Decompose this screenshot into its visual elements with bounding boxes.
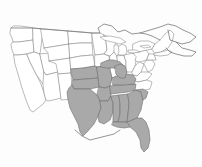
state-maryland: [144, 60, 155, 72]
state-michigan-lower-highlight: [115, 64, 127, 78]
us-states-map: [0, 0, 202, 167]
state-florida-highlight: [127, 118, 150, 152]
state-oklahoma-highlight: [72, 78, 99, 89]
map-container: [0, 0, 202, 167]
state-new-england: [152, 30, 174, 53]
state-missouri-highlight: [97, 65, 112, 88]
state-florida-panhandle-highlight: [112, 122, 130, 128]
state-texas-highlight: [67, 85, 101, 136]
canada-peninsula-outline: [140, 33, 160, 40]
state-georgia-highlight: [127, 90, 143, 122]
